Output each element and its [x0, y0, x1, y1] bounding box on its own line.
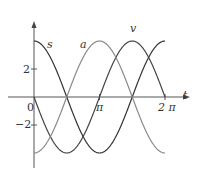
label-v: v — [130, 23, 136, 34]
motion-graph: s a v t 0 π 2 π 2 −2 — [0, 0, 197, 179]
y-axis-arrow-icon — [32, 21, 37, 28]
x-axis-label: t — [183, 90, 187, 101]
tick-label-neg2: −2 — [15, 119, 31, 130]
tick-label-pi: π — [96, 102, 103, 113]
label-s: s — [47, 39, 53, 50]
origin-label: 0 — [27, 102, 34, 113]
tick-label-2pi: 2 π — [158, 102, 176, 113]
tick-label-2: 2 — [23, 64, 30, 75]
plot-area — [0, 0, 197, 179]
label-a: a — [80, 39, 87, 50]
